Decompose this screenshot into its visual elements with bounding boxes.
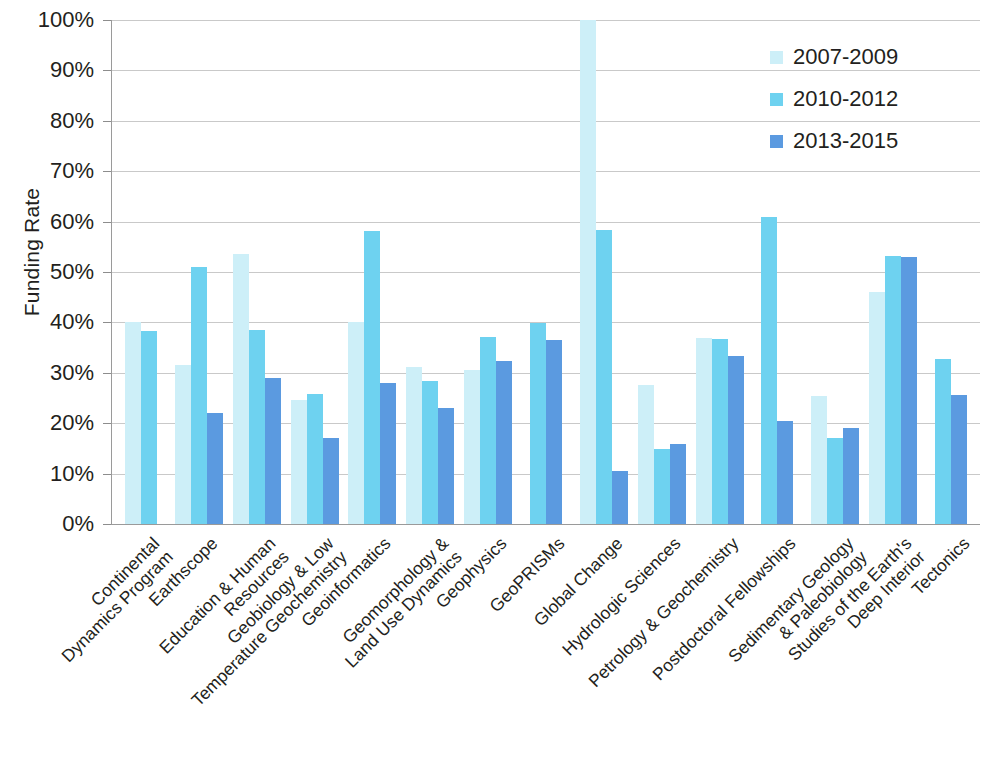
y-tick-mark [103,373,111,374]
legend-swatch-icon [770,93,783,106]
bar [935,359,951,524]
x-axis-tick-labels: Continental Dynamics ProgramEarthscopeEd… [111,526,979,763]
bar-group [228,20,286,524]
bar [638,385,654,524]
bar [777,421,793,524]
y-tick-label: 10% [50,461,94,487]
bar [438,408,454,524]
y-tick-label: 60% [50,209,94,235]
legend-item-label: 2007-2009 [793,44,898,70]
bar [654,449,670,524]
y-tick-label: 100% [38,7,94,33]
bar-group [575,20,633,524]
bar-group [459,20,517,524]
y-tick-mark [103,70,111,71]
bar-group [286,20,344,524]
bar [546,340,562,524]
legend-item-label: 2010-2012 [793,86,898,112]
bar [761,217,777,524]
bar [580,20,596,524]
bar [496,361,512,524]
bar [364,231,380,524]
y-tick-label: 80% [50,108,94,134]
bar-group [170,20,228,524]
bar [612,471,628,524]
y-tick-label: 0% [62,511,94,537]
bar [249,330,265,524]
legend-item[interactable]: 2013-2015 [770,120,980,162]
bar [141,331,157,524]
bar [712,339,728,524]
bar-group [112,20,170,524]
bar [291,400,307,524]
bar-group [517,20,575,524]
bar [951,395,967,524]
funding-rate-bar-chart: Funding Rate 100%90%80%70%60%50%40%30%20… [0,0,986,763]
bar-group [401,20,459,524]
bar [901,257,917,524]
y-tick-label: 20% [50,410,94,436]
y-tick-mark [103,423,111,424]
bar [175,365,191,524]
bar [422,381,438,524]
y-tick-mark [103,524,111,525]
y-tick-label: 90% [50,57,94,83]
y-axis-tick-labels: 100%90%80%70%60%50%40%30%20%10%0% [0,0,108,540]
legend-swatch-icon [770,135,783,148]
bar [125,322,141,524]
y-tick-mark [103,222,111,223]
bar [191,267,207,524]
bar [307,394,323,524]
bar [596,230,612,524]
bar [696,338,712,524]
y-tick-mark [103,474,111,475]
y-tick-label: 40% [50,309,94,335]
bar [843,428,859,524]
bar [811,396,827,524]
y-tick-label: 70% [50,158,94,184]
bar [670,444,686,524]
legend-item[interactable]: 2007-2009 [770,36,980,78]
bar [869,292,885,524]
bar [323,438,339,524]
bar [265,378,281,524]
legend-swatch-icon [770,51,783,64]
y-tick-mark [103,121,111,122]
bar-group [691,20,749,524]
bar [406,367,422,524]
y-tick-mark [103,272,111,273]
bar [827,438,843,524]
y-tick-mark [103,20,111,21]
y-tick-label: 50% [50,259,94,285]
bar [885,256,901,524]
bar-group [633,20,691,524]
y-tick-mark [103,171,111,172]
bar [728,356,744,524]
bar [464,370,480,524]
bar [380,383,396,524]
legend-item-label: 2013-2015 [793,128,898,154]
y-tick-label: 30% [50,360,94,386]
bar [348,322,364,524]
bar [530,323,546,524]
bar [207,413,223,524]
y-tick-mark [103,322,111,323]
bar [233,254,249,524]
legend: 2007-20092010-20122013-2015 [770,36,980,162]
legend-item[interactable]: 2010-2012 [770,78,980,120]
bar [480,337,496,524]
bar-group [343,20,401,524]
